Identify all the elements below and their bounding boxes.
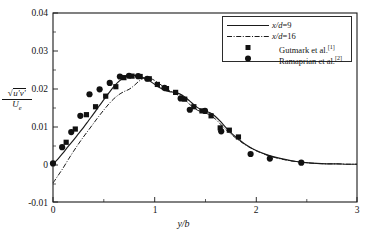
data-point (93, 104, 98, 109)
data-point (84, 112, 89, 117)
data-point (135, 73, 141, 79)
data-point (227, 128, 232, 133)
legend-label-ramaprian: Ramaprian et al.[2] (279, 53, 342, 67)
data-point (97, 86, 103, 92)
legend-label-xd9: x/d=9 (272, 20, 291, 31)
data-point (59, 144, 65, 150)
data-point (187, 107, 193, 113)
legend-ref-2: [2] (335, 55, 342, 61)
data-point (77, 113, 83, 119)
data-point (117, 73, 123, 79)
data-point (161, 85, 167, 91)
legend-row-gutmark: Gutmark et al.[1] (223, 42, 353, 53)
data-point (107, 80, 113, 86)
series-layer (50, 73, 357, 183)
data-point (86, 91, 92, 97)
data-point (178, 95, 184, 101)
data-point (248, 151, 254, 157)
chart-legend: x/d=9 x/d=16 Gutmark et al.[1] Ramaprian… (222, 16, 352, 62)
legend-row-xd9: x/d=9 (223, 20, 353, 31)
data-point (126, 73, 132, 79)
data-point (103, 94, 108, 99)
legend-row-ramaprian: Ramaprian et al.[2] (223, 53, 353, 64)
legend-sample-solid-line (226, 20, 270, 31)
data-point (202, 108, 208, 114)
data-point (68, 129, 74, 135)
data-point (113, 84, 118, 89)
legend-sample-square-marker (226, 42, 270, 53)
data-point (155, 82, 160, 87)
series-line-x-d-16 (53, 78, 357, 183)
figure-container: √u'v' Ue y/b 0.04 0.03 0.02 0.01 0 -0.01… (0, 0, 367, 235)
data-point (64, 140, 69, 145)
data-point (208, 113, 213, 118)
legend-ref-1: [1] (328, 44, 335, 50)
legend-label-xd16: x/d=16 (272, 31, 296, 42)
series-markers-gutmark-et-al-1- (64, 74, 241, 145)
series-markers-ramaprian-et-al-2- (50, 73, 304, 167)
data-point (173, 90, 178, 95)
data-point (144, 76, 150, 82)
data-point (218, 128, 224, 134)
data-point (50, 160, 56, 166)
data-point (236, 134, 241, 139)
data-point (267, 155, 273, 161)
legend-sample-dash-dot-line (226, 31, 270, 42)
data-point (298, 160, 304, 166)
legend-sample-circle-marker (226, 53, 270, 64)
legend-row-xd16: x/d=16 (223, 31, 353, 42)
